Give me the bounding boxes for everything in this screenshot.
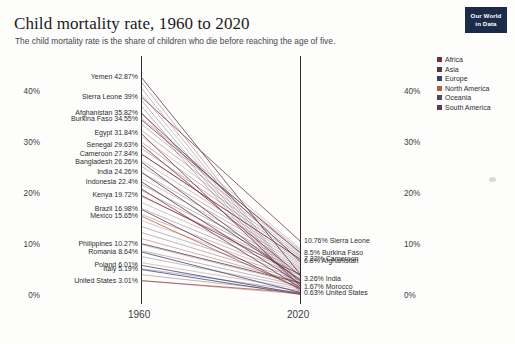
legend-swatch-icon bbox=[437, 57, 442, 62]
right-label: 0.63% United States bbox=[304, 289, 368, 297]
legend-swatch-icon bbox=[437, 95, 442, 100]
x-tick-2020: 2020 bbox=[287, 309, 309, 320]
left-label: Kenya 19.72% bbox=[92, 191, 138, 199]
slope-line bbox=[141, 154, 300, 259]
left-label: Italy 5.19% bbox=[103, 265, 138, 273]
left-label: Philippines 10.27% bbox=[78, 240, 138, 248]
y-tick-left-30: 30% bbox=[14, 138, 40, 147]
left-label: Mexico 15.65% bbox=[90, 212, 138, 220]
legend-item-europe[interactable]: Europe bbox=[437, 75, 491, 82]
slope-line bbox=[141, 166, 300, 262]
y-tick-left-40: 40% bbox=[14, 87, 40, 96]
left-label: India 24.26% bbox=[97, 168, 138, 176]
y-tick-left-10: 10% bbox=[14, 240, 40, 249]
y-tick-right-0: 0% bbox=[404, 291, 432, 300]
left-label: Cameroon 27.84% bbox=[80, 150, 138, 158]
chart-container: Child mortality rate, 1960 to 2020 The c… bbox=[0, 0, 515, 344]
left-label: United States 3.01% bbox=[74, 277, 138, 285]
slope-line bbox=[141, 82, 300, 285]
legend-label: North America bbox=[445, 85, 489, 92]
slope-line bbox=[141, 184, 300, 267]
y-tick-right-30: 30% bbox=[404, 138, 432, 147]
legend-label: Africa bbox=[445, 56, 463, 63]
legend-item-south-america[interactable]: South America bbox=[437, 104, 491, 111]
page-subtitle: The child mortality rate is the share of… bbox=[15, 36, 335, 46]
legend: AfricaAsiaEuropeNorth AmericaOceaniaSout… bbox=[437, 56, 491, 111]
legend-swatch-icon bbox=[437, 105, 442, 110]
our-world-in-data-logo[interactable]: Our World in Data bbox=[465, 7, 507, 33]
legend-item-asia[interactable]: Asia bbox=[437, 66, 491, 73]
scan-artifact bbox=[489, 177, 496, 182]
left-label: Burkina Faso 34.55% bbox=[71, 115, 138, 123]
legend-label: Europe bbox=[445, 75, 468, 82]
y-tick-left-20: 20% bbox=[14, 189, 40, 198]
legend-swatch-icon bbox=[437, 86, 442, 91]
right-label: 6.8% Afghanistan bbox=[304, 257, 359, 265]
slope-line bbox=[141, 97, 300, 241]
y-tick-right-20: 20% bbox=[404, 189, 432, 198]
logo-line-2: in Data bbox=[475, 20, 496, 28]
legend-item-oceania[interactable]: Oceania bbox=[437, 94, 491, 101]
legend-swatch-icon bbox=[437, 76, 442, 81]
logo-line-1: Our World bbox=[470, 12, 501, 20]
right-label: 10.76% Sierra Leone bbox=[304, 237, 370, 245]
page-title: Child mortality rate, 1960 to 2020 bbox=[14, 14, 250, 34]
left-label: Bangladesh 26.26% bbox=[75, 158, 138, 166]
left-label: Yemen 42.87% bbox=[91, 73, 138, 81]
left-label: Romania 8.64% bbox=[88, 248, 138, 256]
slope-line bbox=[141, 94, 300, 288]
legend-label: Asia bbox=[445, 66, 459, 73]
legend-swatch-icon bbox=[437, 67, 442, 72]
legend-item-africa[interactable]: Africa bbox=[437, 56, 491, 63]
left-label: Indonesia 22.4% bbox=[86, 178, 138, 186]
legend-label: South America bbox=[445, 104, 491, 111]
left-label: Sierra Leone 39% bbox=[82, 93, 138, 101]
y-tick-right-10: 10% bbox=[404, 240, 432, 249]
x-tick-1960: 1960 bbox=[128, 309, 150, 320]
legend-item-north-america[interactable]: North America bbox=[437, 85, 491, 92]
legend-label: Oceania bbox=[445, 94, 471, 101]
y-tick-left-0: 0% bbox=[14, 291, 40, 300]
slope-line bbox=[141, 202, 300, 272]
right-label: 3.26% India bbox=[304, 275, 341, 283]
left-label: Senegal 29.63% bbox=[87, 141, 138, 149]
y-tick-right-40: 40% bbox=[404, 87, 432, 96]
left-label: Egypt 31.84% bbox=[94, 129, 138, 137]
